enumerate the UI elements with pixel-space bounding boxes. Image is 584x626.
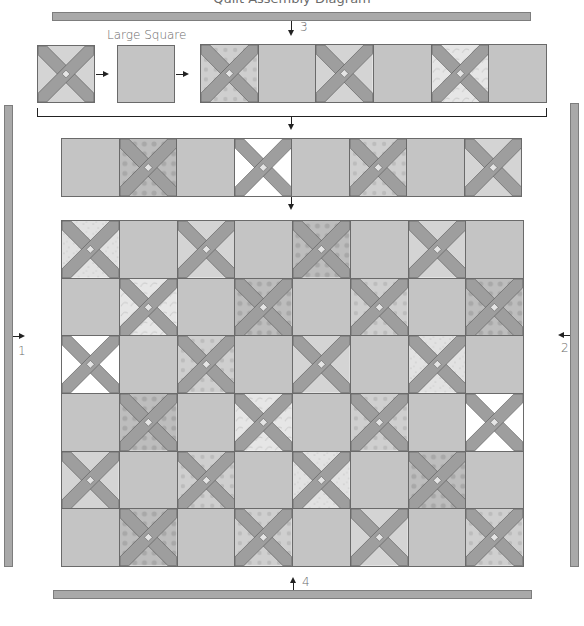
plain-square-block xyxy=(61,393,120,452)
right-border-strip xyxy=(570,103,579,567)
plain-square-block xyxy=(292,393,351,452)
arrow-head-icon xyxy=(288,30,294,36)
cross-block-floral xyxy=(350,393,409,452)
row-bracket xyxy=(37,108,547,117)
cross-block-light xyxy=(350,508,409,567)
plain-square-block xyxy=(465,335,524,394)
plain-square-block xyxy=(292,278,351,337)
arrow-up-4 xyxy=(293,582,294,590)
step-2-label: 2 xyxy=(561,341,569,355)
cross-block-floral xyxy=(177,451,236,510)
plain-square-block xyxy=(177,393,236,452)
large-square-label: Large Square xyxy=(107,28,186,42)
plain-square-block xyxy=(465,451,524,510)
plain-square-block xyxy=(177,508,236,567)
plain-square-block xyxy=(61,278,120,337)
plain-square-block xyxy=(350,220,409,279)
plain-square-block xyxy=(119,335,178,394)
arrow-head-icon xyxy=(288,204,294,210)
plain-square-block xyxy=(408,508,467,567)
cross-block-white xyxy=(61,335,120,394)
arrow-head-icon xyxy=(19,333,25,339)
cross-block-light xyxy=(292,335,351,394)
top-border-strip xyxy=(52,12,531,21)
plain-square-block xyxy=(234,335,293,394)
large-square-block xyxy=(117,45,175,103)
cross-block-light xyxy=(315,44,374,103)
plain-square-block xyxy=(119,451,178,510)
cross-block-dots xyxy=(119,393,178,452)
cross-block-light xyxy=(177,220,236,279)
diagram-title: Quilt Assembly Diagram xyxy=(0,0,584,6)
cross-block-speckle xyxy=(292,451,351,510)
plain-square-block xyxy=(177,278,236,337)
cross-block-speckle xyxy=(61,220,120,279)
plain-square-block xyxy=(258,44,317,103)
plain-square-block xyxy=(408,278,467,337)
plain-square-block xyxy=(119,220,178,279)
arrow-head-icon xyxy=(183,71,189,77)
cross-block-vine xyxy=(234,393,293,452)
cross-block-speckle xyxy=(408,335,467,394)
plain-square-block xyxy=(488,44,547,103)
plain-square-block xyxy=(292,508,351,567)
plain-square-block xyxy=(373,44,432,103)
cross-block-dots xyxy=(465,278,524,337)
cross-block-dots xyxy=(292,220,351,279)
cross-block-dots xyxy=(119,508,178,567)
plain-square-block xyxy=(61,138,120,197)
cross-block-example xyxy=(37,45,95,103)
cross-block-light xyxy=(61,451,120,510)
plain-square-block xyxy=(61,508,120,567)
cross-block-dots xyxy=(234,278,293,337)
arrow-head-icon xyxy=(103,71,109,77)
plain-square-block xyxy=(350,451,409,510)
plain-square-block xyxy=(234,220,293,279)
cross-block-vine xyxy=(119,278,178,337)
cross-block-light xyxy=(408,220,467,279)
arrow-left-2 xyxy=(563,335,570,336)
left-border-strip xyxy=(4,105,13,567)
bottom-border-strip xyxy=(53,590,532,599)
cross-block-dots xyxy=(408,451,467,510)
cross-block-dots xyxy=(119,138,178,197)
plain-square-block xyxy=(234,451,293,510)
plain-square-block xyxy=(465,220,524,279)
step-1-label: 1 xyxy=(18,344,26,358)
cross-block-floral xyxy=(177,335,236,394)
cross-block-floral xyxy=(349,138,408,197)
arrow-head-icon xyxy=(288,124,294,130)
plain-square-block xyxy=(176,138,235,197)
step-4-label: 4 xyxy=(302,575,310,589)
assembled-row xyxy=(61,138,521,196)
cross-block-floral xyxy=(234,508,293,567)
plain-square-block xyxy=(291,138,350,197)
plain-square-block xyxy=(406,138,465,197)
quilt-center-grid xyxy=(61,220,523,566)
plain-square-block xyxy=(350,335,409,394)
cross-block-white xyxy=(234,138,293,197)
step-3-label: 3 xyxy=(300,20,308,34)
plain-square-block xyxy=(408,393,467,452)
cross-block-floral xyxy=(350,278,409,337)
cross-block-light xyxy=(464,138,523,197)
cross-block-vine xyxy=(431,44,490,103)
cross-block-white xyxy=(465,393,524,452)
row-unit-strip xyxy=(200,44,546,102)
cross-block-floral xyxy=(465,508,524,567)
cross-block-floral xyxy=(200,44,259,103)
